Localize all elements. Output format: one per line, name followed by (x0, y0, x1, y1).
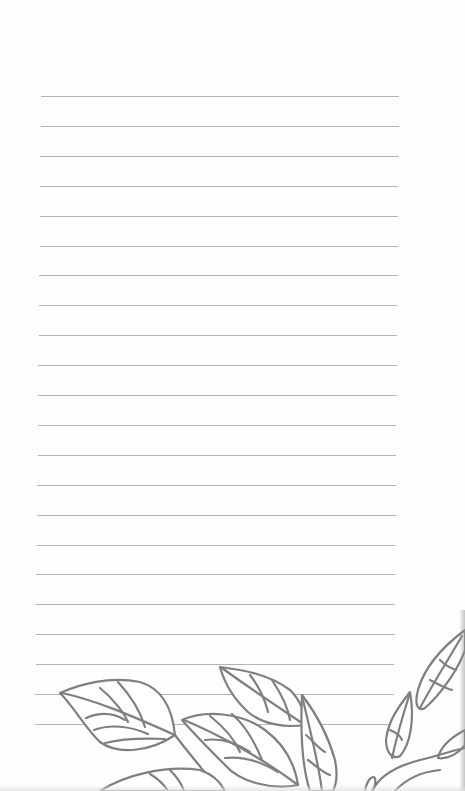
ruled-line (38, 425, 397, 426)
ruled-line (40, 246, 398, 247)
ruled-line (41, 96, 399, 97)
notepad-page (0, 0, 465, 791)
ruled-line (40, 216, 398, 217)
ruled-line (39, 305, 397, 306)
ruled-line (38, 395, 396, 396)
ruled-line (38, 455, 397, 456)
leaf-right-edge-icon (416, 630, 465, 758)
ruled-line (37, 545, 396, 546)
ruled-line (36, 574, 395, 575)
ruled-line (40, 186, 398, 187)
ruled-line (39, 275, 397, 276)
ruled-line (36, 604, 395, 605)
ruled-line (37, 515, 396, 516)
ruled-line (37, 485, 396, 486)
leaf-left-icon (60, 680, 220, 791)
page-edge-shadow (459, 610, 465, 791)
ruled-line (36, 634, 395, 635)
leaf-tall-icon (301, 695, 336, 791)
ruled-line (40, 156, 398, 157)
ruled-line (39, 335, 397, 336)
ruled-line (38, 365, 396, 366)
leaf-small-right-icon (386, 692, 412, 758)
ruled-line (41, 126, 399, 127)
ruled-line (36, 664, 395, 665)
leaf-center-upper-icon (220, 667, 305, 726)
ruled-line (35, 694, 394, 695)
ruled-line (35, 724, 394, 725)
page-bottom-fade (0, 785, 465, 791)
